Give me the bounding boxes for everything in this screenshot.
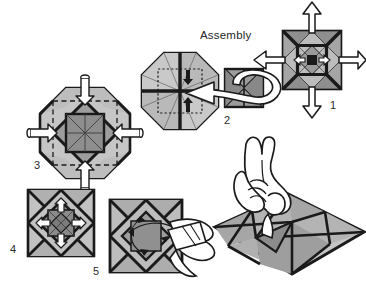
step-label-2: 2 [224,115,230,126]
step-4-diagram [28,190,94,256]
step-3-arrow-left-tail [27,129,30,137]
step-5-inner-square [131,221,161,251]
step-label-3: 3 [34,160,40,171]
step-label-1: 1 [330,100,336,111]
hand-index-finger [267,193,285,215]
step-3-arrow-right-tail [140,129,143,137]
assembly-title: Assembly [200,29,251,41]
step-1-centre-hub [307,55,317,65]
step-3-arrow-top-tail [81,75,89,78]
origami-assembly-figure [0,0,366,296]
step-label-4: 4 [10,244,16,255]
step-label-5: 5 [93,266,99,277]
step-3-inner-creases [66,114,104,152]
